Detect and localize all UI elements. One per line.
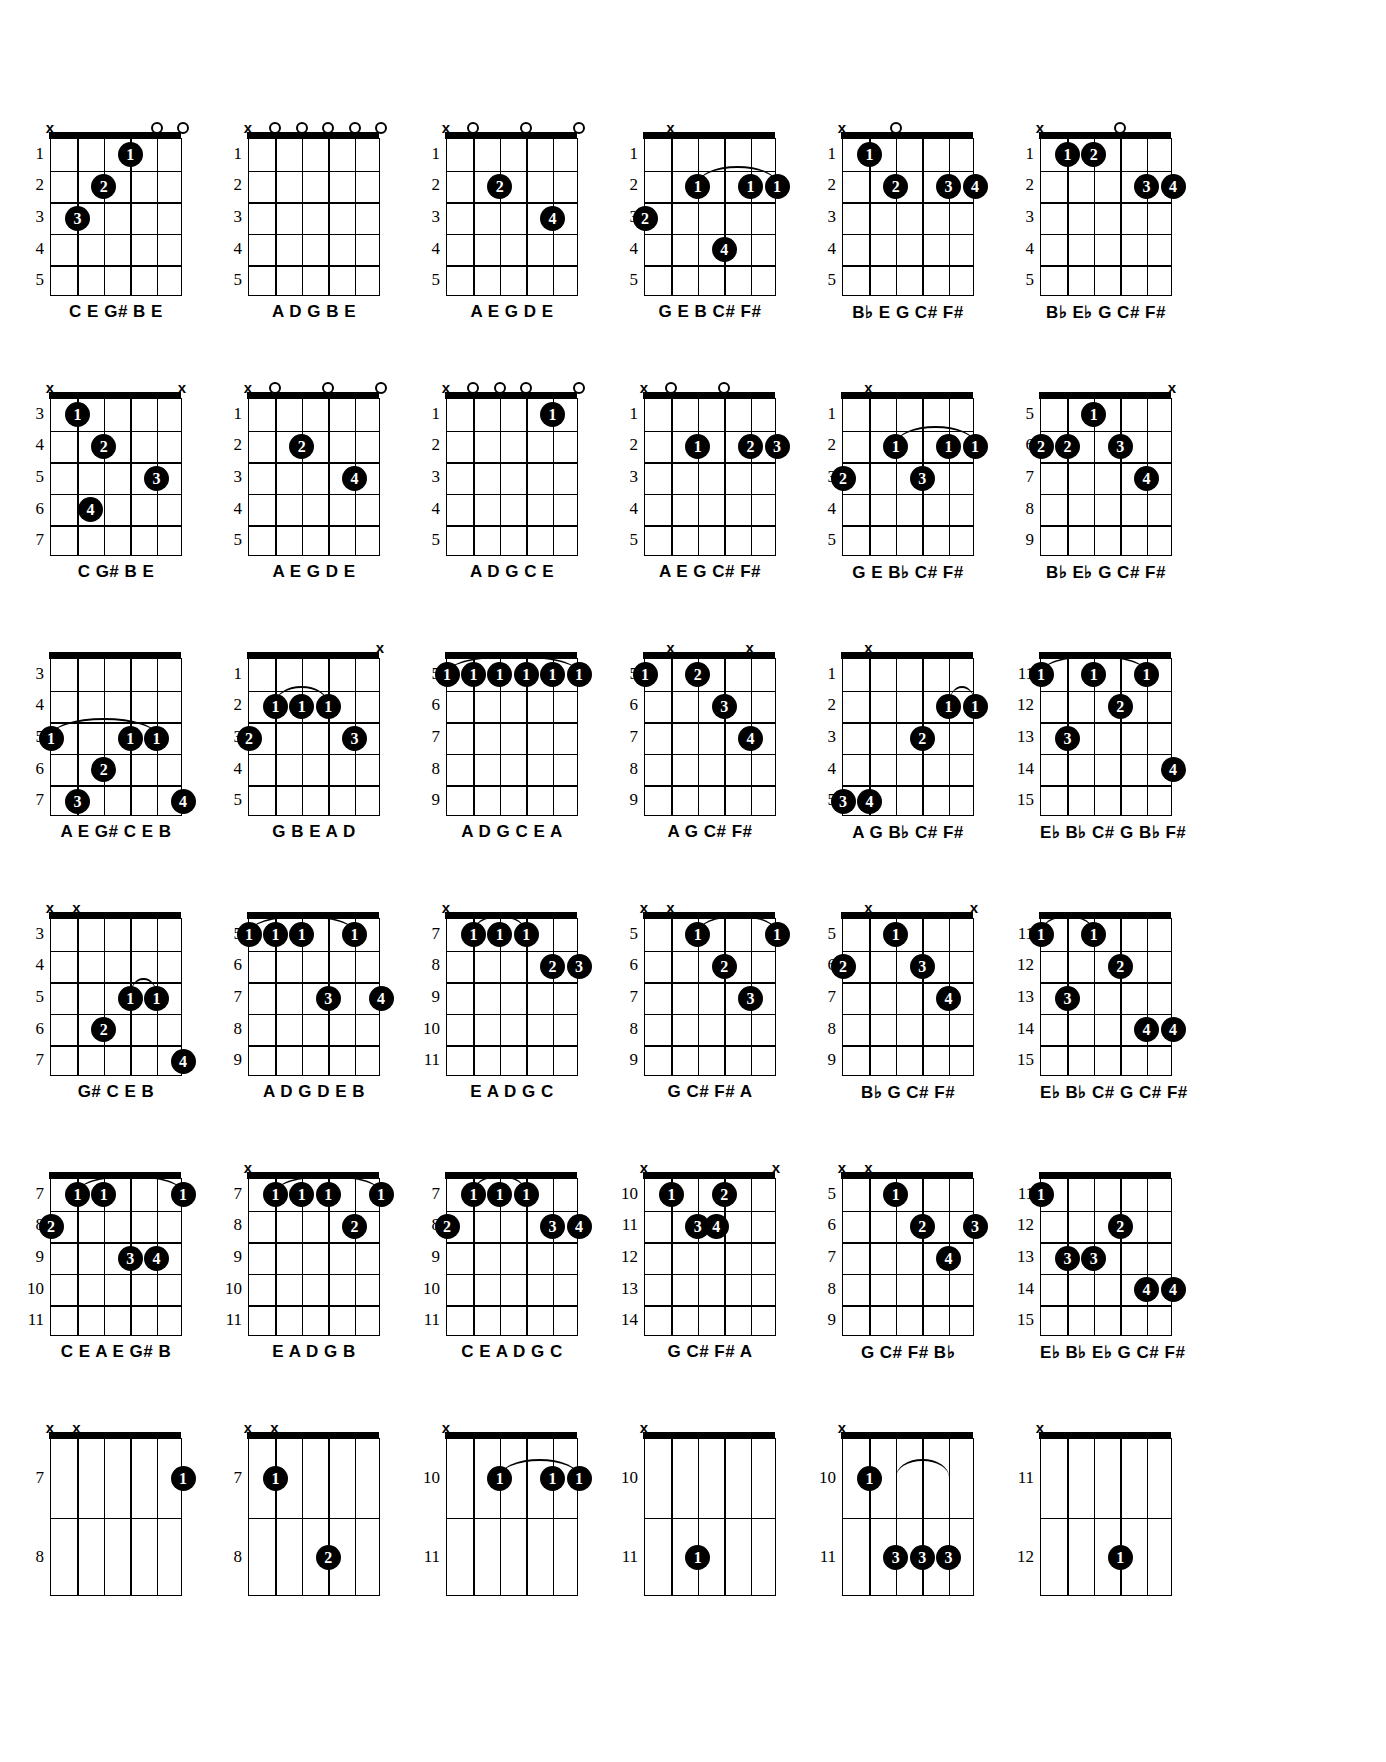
fretboard[interactable]: 111234 — [50, 1178, 182, 1336]
finger-dot[interactable]: 4 — [1134, 1017, 1159, 1042]
fretboard[interactable]: 1123 — [644, 918, 776, 1076]
chord-diagram[interactable]: xx567891123G C# F# A — [610, 898, 776, 1102]
finger-dot[interactable]: 1 — [883, 434, 908, 459]
finger-dot[interactable]: 3 — [1055, 726, 1080, 751]
fretboard[interactable]: 12234 — [1040, 398, 1172, 556]
chord-diagram[interactable]: 1112131415123344E♭ B♭ E♭ G C# F# — [1006, 1158, 1172, 1363]
finger-dot[interactable]: 3 — [144, 466, 169, 491]
fretboard[interactable]: 1234 — [644, 658, 776, 816]
fretboard[interactable]: 111 — [446, 1438, 578, 1596]
chord-diagram[interactable]: x1234511124G E B C# F# — [610, 118, 776, 322]
finger-dot[interactable]: 4 — [1161, 1017, 1186, 1042]
finger-dot[interactable]: 2 — [1055, 434, 1080, 459]
fretboard[interactable]: 111234 — [1040, 658, 1172, 816]
fretboard[interactable]: 1 — [1040, 1438, 1172, 1596]
chord-diagram[interactable]: 1112131415112344E♭ B♭ C# G C# F# — [1006, 898, 1172, 1103]
finger-dot[interactable]: 1 — [1134, 662, 1159, 687]
finger-dot[interactable]: 3 — [316, 986, 341, 1011]
finger-dot[interactable]: 1 — [1029, 1182, 1054, 1207]
finger-dot[interactable]: 1 — [289, 694, 314, 719]
finger-dot[interactable]: 1 — [659, 1182, 684, 1207]
fretboard[interactable]: 1234 — [1040, 138, 1172, 296]
finger-dot[interactable]: 1 — [65, 402, 90, 427]
finger-dot[interactable]: 1 — [1081, 922, 1106, 947]
chord-diagram[interactable]: x789101111112E A D G B — [214, 1158, 380, 1362]
finger-dot[interactable]: 1 — [144, 726, 169, 751]
finger-dot[interactable]: 4 — [1134, 466, 1159, 491]
finger-dot[interactable]: 1 — [685, 1545, 710, 1570]
finger-dot[interactable]: 4 — [540, 206, 565, 231]
finger-dot[interactable]: 1 — [289, 1182, 314, 1207]
finger-dot[interactable]: 1 — [144, 986, 169, 1011]
finger-dot[interactable]: 4 — [738, 726, 763, 751]
finger-dot[interactable]: 1 — [461, 1182, 486, 1207]
chord-diagram[interactable]: x1234524A E G D E — [214, 378, 380, 582]
finger-dot[interactable]: 3 — [765, 434, 790, 459]
finger-dot[interactable]: 1 — [936, 434, 961, 459]
fretboard[interactable]: 24 — [446, 138, 578, 296]
finger-dot[interactable]: 3 — [910, 954, 935, 979]
fretboard[interactable]: 11123 — [842, 398, 974, 556]
finger-dot[interactable]: 3 — [118, 1246, 143, 1271]
chord-diagram[interactable]: xx345671124G# C E B — [16, 898, 182, 1102]
fretboard[interactable]: 1234 — [644, 1178, 776, 1336]
finger-dot[interactable]: 2 — [435, 1214, 460, 1239]
chord-diagram[interactable]: x12345A D G B E — [214, 118, 380, 322]
finger-dot[interactable]: 2 — [342, 1214, 367, 1239]
finger-dot[interactable]: 4 — [78, 497, 103, 522]
finger-dot[interactable]: 2 — [883, 174, 908, 199]
finger-dot[interactable]: 4 — [1161, 757, 1186, 782]
finger-dot[interactable]: 2 — [685, 662, 710, 687]
finger-dot[interactable]: 1 — [685, 174, 710, 199]
finger-dot[interactable]: 1 — [461, 662, 486, 687]
finger-dot[interactable]: 4 — [1161, 174, 1186, 199]
finger-dot[interactable]: 4 — [857, 789, 882, 814]
finger-dot[interactable]: 1 — [118, 986, 143, 1011]
finger-dot[interactable]: 2 — [91, 174, 116, 199]
finger-dot[interactable]: 1 — [765, 922, 790, 947]
fretboard[interactable]: 1333 — [842, 1438, 974, 1596]
finger-dot[interactable]: 1 — [263, 694, 288, 719]
fretboard[interactable]: 111234 — [446, 1178, 578, 1336]
finger-dot[interactable]: 1 — [369, 1182, 394, 1207]
fretboard[interactable]: 11123 — [446, 918, 578, 1076]
chord-diagram[interactable]: x789101111123E A D G C — [412, 898, 578, 1102]
finger-dot[interactable]: 2 — [237, 726, 262, 751]
finger-dot[interactable]: 1 — [487, 1182, 512, 1207]
finger-dot[interactable]: 3 — [342, 726, 367, 751]
chord-diagram[interactable]: x123451A D G C E — [412, 378, 578, 582]
finger-dot[interactable]: 1 — [540, 662, 565, 687]
finger-dot[interactable]: 1 — [514, 662, 539, 687]
finger-dot[interactable]: 1 — [1081, 402, 1106, 427]
finger-dot[interactable]: 1 — [633, 662, 658, 687]
finger-dot[interactable]: 1 — [963, 694, 988, 719]
finger-dot[interactable]: 2 — [1108, 694, 1133, 719]
finger-dot[interactable]: 3 — [883, 1545, 908, 1570]
finger-dot[interactable]: 1 — [263, 1466, 288, 1491]
fretboard[interactable]: 1234 — [842, 138, 974, 296]
finger-dot[interactable]: 2 — [910, 1214, 935, 1239]
finger-dot[interactable]: 4 — [1161, 1277, 1186, 1302]
chord-diagram[interactable]: 7891011111234C E A E G# B — [16, 1158, 182, 1362]
finger-dot[interactable]: 1 — [118, 142, 143, 167]
finger-dot[interactable]: 1 — [685, 922, 710, 947]
finger-dot[interactable]: 1 — [567, 1466, 592, 1491]
finger-dot[interactable]: 2 — [831, 466, 856, 491]
finger-dot[interactable]: 3 — [1055, 986, 1080, 1011]
chord-diagram[interactable]: x1234511234A G B♭ C# F# — [808, 638, 974, 843]
finger-dot[interactable]: 1 — [263, 922, 288, 947]
finger-dot[interactable]: 1 — [263, 1182, 288, 1207]
finger-dot[interactable]: 1 — [883, 1182, 908, 1207]
finger-dot[interactable]: 3 — [540, 1214, 565, 1239]
fretboard[interactable]: 111111 — [446, 658, 578, 816]
finger-dot[interactable]: 3 — [1081, 1246, 1106, 1271]
finger-dot[interactable]: 1 — [91, 1182, 116, 1207]
finger-dot[interactable]: 2 — [91, 757, 116, 782]
finger-dot[interactable]: 1 — [118, 726, 143, 751]
chord-diagram[interactable]: xx7812 — [214, 1418, 380, 1602]
chord-diagram[interactable]: xx781 — [16, 1418, 182, 1602]
chord-diagram[interactable]: x10111 — [610, 1418, 776, 1602]
fretboard[interactable]: 1234 — [842, 918, 974, 1076]
finger-dot[interactable]: 2 — [289, 434, 314, 459]
finger-dot[interactable]: 1 — [289, 922, 314, 947]
